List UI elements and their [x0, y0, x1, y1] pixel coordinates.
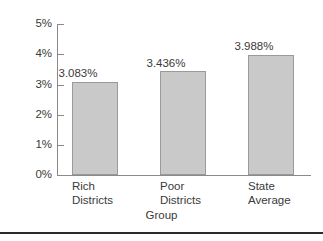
bottom-divider: [0, 232, 323, 234]
bar-rich-districts: [72, 82, 118, 175]
y-tick-label-5: 5%: [0, 18, 52, 30]
y-tick-label-4: 4%: [0, 48, 52, 60]
y-tick-label-text: 1%: [4, 139, 52, 151]
category-label-line-2: Districts: [160, 193, 201, 207]
bar-value-label-poor-districts: 3.436%: [125, 57, 207, 69]
category-label-line-1: Rich: [72, 179, 113, 193]
category-label-line-2: Average: [248, 193, 291, 207]
y-tick-label-text: 0%: [4, 169, 52, 181]
y-tick-label-text: 5%: [4, 18, 52, 30]
bar-value-label-state-average: 3.988%: [213, 40, 295, 52]
x-axis-title: Group: [0, 209, 323, 222]
y-tick-label-0: 0%: [0, 169, 52, 181]
category-label-line-1: State: [248, 179, 291, 193]
category-label-rich-districts: Rich Districts: [72, 179, 113, 207]
bar-state-average: [248, 55, 294, 175]
y-tick-label-text: 2%: [4, 109, 52, 121]
category-label-poor-districts: Poor Districts: [160, 179, 201, 207]
bar-poor-districts: [160, 71, 206, 175]
category-label-state-average: State Average: [248, 179, 291, 207]
category-label-line-2: Districts: [72, 193, 113, 207]
y-tick-label-1: 1%: [0, 139, 52, 151]
x-axis-line: [57, 175, 311, 176]
bar-value-label-rich-districts: 3.083%: [37, 67, 119, 79]
category-label-line-1: Poor: [160, 179, 201, 193]
y-tick-label-text: 3%: [4, 79, 52, 91]
y-tick-label-text: 4%: [4, 48, 52, 60]
bar-chart-figure: 0% 1% 2% 3% 4% 5% 3.083% 3.436% 3.988% R…: [0, 0, 323, 241]
y-tick-label-3: 3%: [0, 79, 52, 91]
y-tick-label-2: 2%: [0, 109, 52, 121]
